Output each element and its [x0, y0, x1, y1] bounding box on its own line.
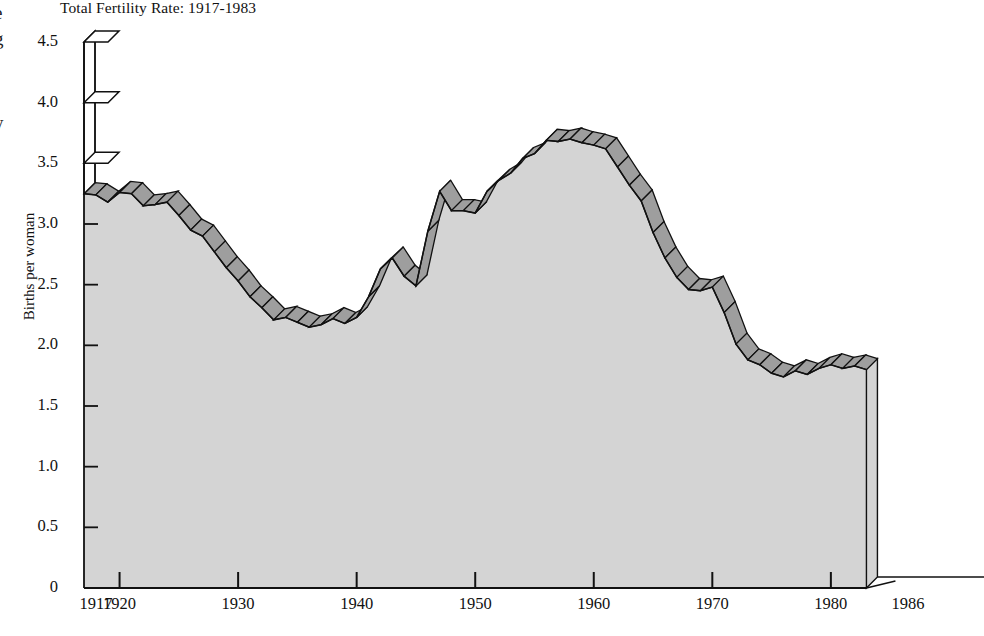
x-tick-1940: 1940 [340, 596, 373, 613]
x-tick-1930: 1930 [222, 596, 255, 613]
end-wall-3d [866, 359, 877, 588]
x-tick-1970: 1970 [696, 596, 729, 613]
y-axis-shelf-4.5 [84, 31, 119, 42]
fertility-rate-area-chart [0, 0, 984, 636]
axis-column-side [84, 31, 95, 194]
x-tick-1960: 1960 [577, 596, 610, 613]
x-tick-1920: 1920 [103, 596, 136, 613]
x-tick-1950: 1950 [459, 596, 492, 613]
x-tick-1980: 1980 [814, 596, 847, 613]
chart-canvas: e g y Total Fertility Rate: 1917-1983 Bi… [0, 0, 984, 636]
x-tick-1986: 1986 [892, 596, 925, 613]
